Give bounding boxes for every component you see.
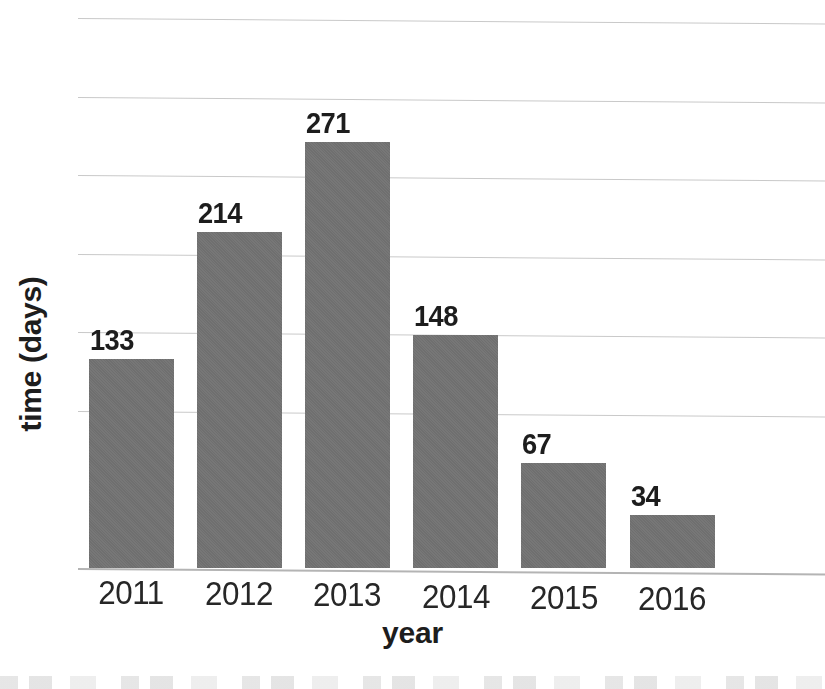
scan-edge-artifact	[0, 676, 825, 689]
bar-chart-figure: 1332142711486734 20112012201320142015201…	[0, 0, 825, 689]
bar	[89, 359, 174, 568]
gridline	[78, 97, 825, 103]
bar-value-label: 271	[306, 107, 350, 140]
x-tick-label: 2015	[507, 579, 621, 617]
gridline	[78, 254, 825, 260]
plot-area	[78, 0, 825, 570]
x-tick-label: 2012	[182, 575, 296, 613]
y-axis-title: time (days)	[14, 184, 48, 524]
x-axis-title: year	[0, 616, 825, 650]
gridline	[78, 175, 825, 181]
x-tick-label: 2013	[290, 576, 404, 614]
x-tick-label: 2016	[615, 580, 729, 618]
bar-value-label: 67	[522, 428, 551, 461]
gridline	[78, 18, 825, 24]
bar	[521, 463, 606, 568]
bar	[630, 515, 715, 568]
bar-value-label: 214	[198, 197, 242, 230]
bar	[197, 232, 282, 568]
bar-value-label: 133	[90, 324, 134, 357]
x-tick-label: 2011	[74, 574, 188, 612]
bar-value-label: 148	[414, 300, 458, 333]
bar	[413, 335, 498, 568]
x-tick-label: 2014	[399, 578, 513, 616]
bar-value-label: 34	[631, 480, 660, 513]
bar	[305, 142, 390, 568]
